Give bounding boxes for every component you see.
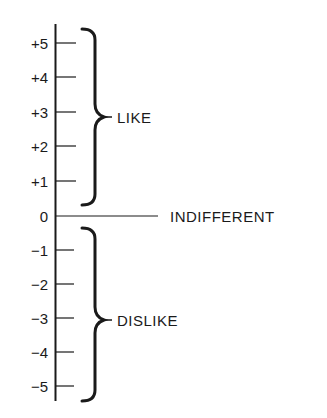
tick-label-minus-1: −1 [8, 243, 48, 258]
tick-label-minus-5: −5 [8, 379, 48, 394]
tick-label-plus-2: +2 [8, 139, 48, 154]
like-label: LIKE [117, 110, 152, 125]
tick-label-plus-4: +4 [8, 70, 48, 85]
tick-label-minus-3: −3 [8, 311, 48, 326]
scale-diagram [0, 0, 327, 418]
dislike-brace [82, 228, 104, 401]
tick-label-plus-1: +1 [8, 174, 48, 189]
tick-label-plus-3: +3 [8, 105, 48, 120]
like-brace [82, 29, 104, 205]
tick-marks [56, 43, 76, 386]
tick-label-plus-5: +5 [8, 36, 48, 51]
tick-label-minus-2: −2 [8, 277, 48, 292]
tick-label-minus-4: −4 [8, 345, 48, 360]
dislike-label: DISLIKE [117, 313, 178, 328]
tick-label-zero: 0 [8, 209, 48, 224]
indifferent-label: INDIFFERENT [170, 209, 275, 224]
